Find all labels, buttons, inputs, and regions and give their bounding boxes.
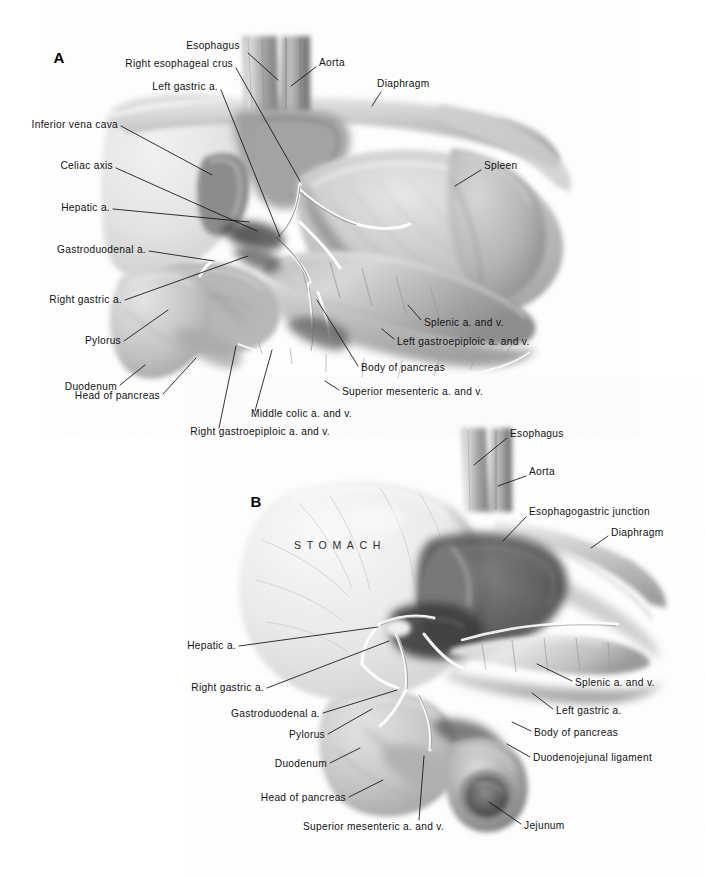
leader-b-aorta <box>498 476 526 486</box>
label-b-superior-mesenteric: Superior mesenteric a. and v. <box>303 822 444 832</box>
figure-a-marker: A <box>54 49 65 66</box>
leader-a-aorta <box>291 67 316 86</box>
label-b-esophagogastric-junction: Esophagogastric junction <box>529 507 650 517</box>
stomach-organ-label: STOMACH <box>294 539 386 551</box>
leader-b-pylorus <box>328 709 372 734</box>
label-b-aorta: Aorta <box>529 467 555 477</box>
label-b-hepatic-a: Hepatic a. <box>187 641 236 651</box>
label-a-hepatic-a: Hepatic a. <box>61 203 110 213</box>
leader-a-diaphragm <box>372 92 381 106</box>
label-b-diaphragm: Diaphragm <box>611 528 664 538</box>
leader-b-jejunum <box>489 802 521 824</box>
leader-a-spleen <box>455 170 481 186</box>
label-a-middle-colic: Middle colic a. and v. <box>251 409 352 419</box>
label-b-left-gastric-a: Left gastric a. <box>556 706 622 716</box>
label-a-pylorus: Pylorus <box>85 336 121 346</box>
leader-a-splenic-a-and-v <box>408 305 421 320</box>
leader-b-right-gastric-a <box>267 641 389 688</box>
leader-a-left-gastroepiploic <box>382 329 394 339</box>
label-b-gastroduodenal-a: Gastroduodenal a. <box>231 709 320 719</box>
label-a-inferior-vena-cava: Inferior vena cava <box>32 120 118 130</box>
figure-b-marker: B <box>251 493 262 510</box>
leader-a-hepatic-a <box>113 209 249 222</box>
leader-a-pylorus <box>124 310 168 341</box>
label-a-body-of-pancreas: Body of pancreas <box>361 363 445 373</box>
label-a-superior-mesenteric: Superior mesenteric a. and v. <box>342 387 483 397</box>
leader-a-celiac-axis <box>116 168 257 231</box>
label-a-head-of-pancreas: Head of pancreas <box>75 391 160 401</box>
leader-a-gastroduodenal-a <box>149 251 214 261</box>
leader-a-middle-colic <box>255 350 272 411</box>
label-a-left-gastric-a: Left gastric a. <box>152 82 218 92</box>
label-b-duodenojejunal-ligament: Duodenojejunal ligament <box>533 753 652 763</box>
leader-a-right-esophageal-crus <box>236 68 300 181</box>
leader-b-splenic-a-and-v <box>537 664 572 681</box>
label-b-right-gastric-a: Right gastric a. <box>191 683 264 693</box>
leader-b-head-of-pancreas <box>349 780 383 797</box>
leader-b-duodenojejunal-ligament <box>507 744 530 757</box>
leader-a-inferior-vena-cava <box>121 126 212 175</box>
leader-a-esophagus <box>248 53 278 80</box>
label-a-diaphragm: Diaphragm <box>377 79 430 89</box>
label-b-duodenum: Duodenum <box>275 759 327 769</box>
label-b-pylorus: Pylorus <box>289 730 325 740</box>
leader-b-superior-mesenteric <box>419 756 424 820</box>
leader-b-duodenum <box>330 748 360 763</box>
leader-a-left-gastric-a <box>221 90 280 237</box>
label-a-splenic-a-and-v: Splenic a. and v. <box>424 318 504 328</box>
leader-b-hepatic-a <box>239 627 378 646</box>
leader-a-duodenum <box>120 365 145 385</box>
leader-a-right-gastric-a <box>125 256 248 300</box>
label-a-esophagus: Esophagus <box>186 41 240 51</box>
label-b-esophagus: Esophagus <box>510 429 564 439</box>
leader-b-diaphragm <box>591 536 608 548</box>
label-a-right-esophageal-crus: Right esophageal crus <box>125 59 233 69</box>
leader-b-body-of-pancreas <box>512 722 531 731</box>
label-a-right-gastric-a: Right gastric a. <box>49 295 122 305</box>
label-a-right-gastroepiploic: Right gastroepiploic a. and v. <box>190 427 330 437</box>
leader-b-gastroduodenal-a <box>323 690 397 713</box>
leader-b-esophagogastric-junction <box>503 517 526 541</box>
label-b-splenic-a-and-v: Splenic a. and v. <box>575 678 655 688</box>
leader-b-esophagus <box>474 438 507 465</box>
label-a-spleen: Spleen <box>484 161 518 171</box>
leader-a-superior-mesenteric <box>325 381 339 390</box>
leader-a-body-of-pancreas <box>317 300 358 366</box>
label-b-body-of-pancreas: Body of pancreas <box>534 728 618 738</box>
leader-b-left-gastric-a <box>532 693 553 709</box>
leader-a-head-of-pancreas <box>163 358 196 394</box>
label-a-left-gastroepiploic: Left gastroepiploic a. and v. <box>397 337 530 347</box>
leader-lines <box>0 0 705 878</box>
label-a-celiac-axis: Celiac axis <box>60 161 113 171</box>
anatomical-plate: EsophagusAortaRight esophageal crusDiaph… <box>0 0 705 878</box>
label-a-gastroduodenal-a: Gastroduodenal a. <box>57 245 146 255</box>
label-a-aorta: Aorta <box>319 58 345 68</box>
label-b-head-of-pancreas: Head of pancreas <box>261 793 346 803</box>
label-b-jejunum: Jejunum <box>524 821 565 831</box>
leader-a-right-gastroepiploic <box>219 346 236 428</box>
